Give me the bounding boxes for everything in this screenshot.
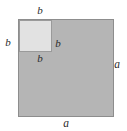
label-a-bottom: a [63, 118, 69, 130]
label-b-inner-bottom: b [37, 53, 43, 64]
geometric-figure-canvas: b b b b a a [0, 0, 127, 131]
label-b-left: b [5, 37, 11, 48]
label-a-right: a [114, 59, 120, 71]
inner-square-shape [19, 20, 52, 52]
label-b-inner-right: b [55, 38, 61, 49]
label-b-top: b [37, 5, 43, 16]
